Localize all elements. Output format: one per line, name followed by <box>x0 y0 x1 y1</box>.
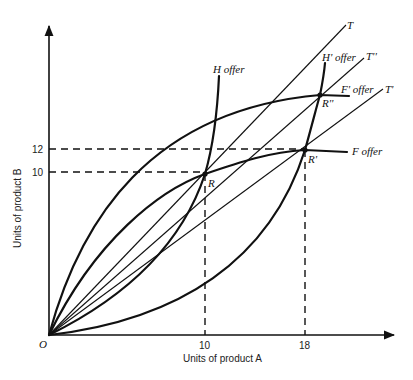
h-prime-offer-label-text: H' offer <box>321 51 357 63</box>
y-tick-12: 12 <box>32 144 44 155</box>
origin-label: O <box>39 338 47 350</box>
f-offer-label: F offer <box>351 145 383 157</box>
ray-t-prime-label: T' <box>385 83 394 95</box>
f-prime-offer-label-text: F' offer <box>340 83 374 95</box>
y-axis-title: Units of product B <box>12 168 23 248</box>
h-offer-curve <box>49 76 219 335</box>
ray-t-double-prime <box>49 58 364 335</box>
f-prime-offer-label: F' offer <box>340 83 374 95</box>
offer-curve-diagram: R R' R'' T T'' T' H offer H' offer F' of… <box>0 0 413 380</box>
h-offer-label-text: H offer <box>212 63 245 75</box>
point-r-label: R <box>207 177 215 189</box>
point-r-double-prime-label: R'' <box>321 97 334 109</box>
x-tick-10: 10 <box>199 340 211 351</box>
point-r-marker <box>202 171 207 176</box>
point-r-prime-label: R' <box>307 153 318 165</box>
ray-t-double-prime-label: T'' <box>366 50 377 62</box>
ray-t-prime <box>49 89 383 335</box>
f-prime-offer-curve <box>49 95 349 335</box>
ray-t-label: T <box>347 19 354 31</box>
h-offer-label: H offer <box>212 63 245 75</box>
f-offer-curve <box>49 150 347 335</box>
y-tick-10: 10 <box>32 167 44 178</box>
point-r-prime-marker <box>302 147 307 152</box>
f-offer-label-text: F offer <box>351 145 383 157</box>
x-tick-18: 18 <box>299 340 311 351</box>
h-prime-offer-curve <box>49 63 325 335</box>
x-axis-title: Units of product A <box>183 353 262 364</box>
h-prime-offer-label: H' offer <box>321 51 357 63</box>
